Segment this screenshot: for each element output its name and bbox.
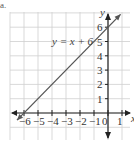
y-tick-label: 1 [97,93,103,105]
y-axis-arrow-down-icon [105,132,111,139]
x-tick-label: 1 [117,115,123,127]
y-tick-label: 6 [97,21,103,33]
y-tick-label: 3 [97,64,103,76]
y-tick-label: 4 [97,50,103,62]
x-tick-label: −4 [47,115,59,127]
x-axis-arrow-left-icon [11,110,17,116]
data-series [17,14,121,120]
y-axis-label: y [99,6,105,18]
x-tick-label: −1 [89,115,101,127]
y-tick-label: 2 [97,78,103,90]
tick-labels: xy−6−5−4−3−2−101123456 [19,6,134,127]
x-axis-label: x [130,112,134,124]
x-tick-label: −5 [33,115,45,127]
y-axis-arrow-up-icon [105,13,111,20]
x-tick-label: −2 [75,115,87,127]
x-tick-label: −3 [61,115,73,127]
annotations: y = x + 6 [51,35,94,47]
equation-label: y = x + 6 [51,35,94,47]
x-tick-label: 0 [102,115,108,127]
line-graph: xy−6−5−4−3−2−101123456 y = x + 6 [0,0,134,144]
series-line [17,14,121,120]
